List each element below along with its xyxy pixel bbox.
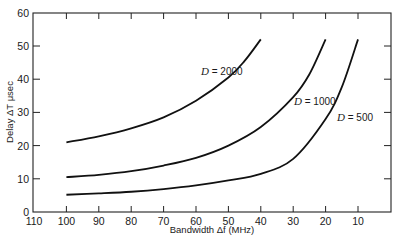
y-tick-label: 0 <box>23 206 29 218</box>
x-tick-label: 80 <box>125 215 137 227</box>
y-tick-label: 40 <box>17 73 29 85</box>
curve-label: D = 500 <box>336 111 373 123</box>
x-tick-label: 70 <box>158 215 170 227</box>
x-tick-label: 100 <box>58 215 76 227</box>
data-curves <box>66 39 358 194</box>
y-tick-label: 30 <box>17 106 29 118</box>
curve-d1000 <box>66 39 325 177</box>
x-axis-title: Bandwidth Δf (MHz) <box>170 224 254 235</box>
delay-vs-bandwidth-chart: 1101009080706050403020100102030405060 D … <box>0 0 396 238</box>
curve-d2000 <box>66 39 260 142</box>
curve-label: D = 2000 <box>200 65 243 77</box>
y-axis-title: Delay ΔT μsec <box>4 81 15 143</box>
y-tick-label: 20 <box>17 140 29 152</box>
y-tick-label: 50 <box>17 40 29 52</box>
y-tick-label: 60 <box>17 7 29 19</box>
x-tick-label: 90 <box>93 215 105 227</box>
x-tick-label: 30 <box>287 215 299 227</box>
curve-label: D = 1000 <box>293 95 336 107</box>
x-tick-label: 40 <box>255 215 267 227</box>
x-tick-label: 20 <box>320 215 332 227</box>
x-tick-label: 10 <box>352 215 364 227</box>
y-tick-label: 10 <box>17 173 29 185</box>
